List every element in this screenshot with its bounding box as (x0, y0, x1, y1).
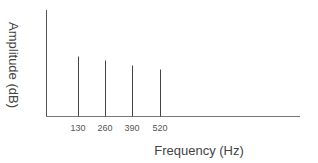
stems-group (79, 57, 161, 117)
x-tick-label: 130 (70, 123, 85, 133)
y-axis-label: Amplitude (dB) (6, 22, 21, 108)
spectrum-chart (0, 0, 318, 163)
x-tick-label: 260 (97, 123, 112, 133)
x-axis-label: Frequency (Hz) (154, 143, 244, 158)
x-tick-label: 520 (152, 123, 167, 133)
x-tick-label: 390 (124, 123, 139, 133)
